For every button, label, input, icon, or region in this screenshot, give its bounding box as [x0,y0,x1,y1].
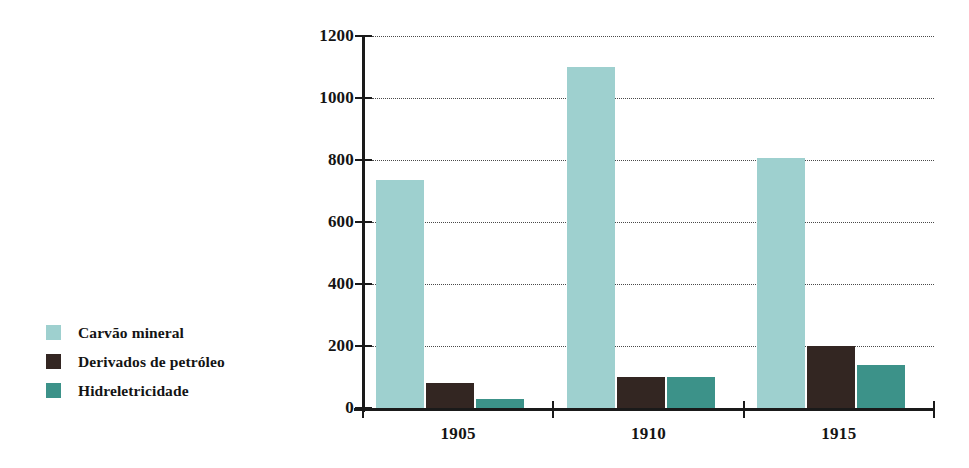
bar [667,377,715,408]
chart-legend: Carvão mineral Derivados de petróleo Hid… [46,318,296,405]
gridline [372,284,934,285]
bar [807,346,855,408]
legend-item-derivados-de-petroleo: Derivados de petróleo [46,347,296,376]
legend-label-derivados-de-petroleo: Derivados de petróleo [78,353,225,371]
y-axis-tick-label: 0 [345,398,354,418]
y-axis-tick-label: 1200 [319,26,354,46]
x-axis-tick-mark [933,401,935,418]
x-axis-tick-label: 1910 [631,424,666,444]
legend-swatch-hidreletricidade [46,383,61,398]
legend-swatch-derivados-de-petroleo [46,354,61,369]
y-axis-tick-labels: 020040060080010001200 [300,20,354,450]
legend-swatch-carvao-mineral [46,325,61,340]
bar [426,383,474,408]
x-axis-tick-mark [362,401,364,418]
bar [376,180,424,408]
y-axis-tick-label: 1000 [319,88,354,108]
legend-label-carvao-mineral: Carvão mineral [78,324,184,342]
y-axis-tick-label: 200 [328,336,354,356]
y-axis-tick-mark [355,35,372,37]
axes-and-bars: 190519101915 [354,20,950,450]
legend-item-carvao-mineral: Carvão mineral [46,318,296,347]
x-axis-tick-label: 1905 [441,424,476,444]
bar [857,365,905,408]
legend-item-hidreletricidade: Hidreletricidade [46,376,296,405]
y-axis-tick-mark [355,221,372,223]
chart-figure: Carvão mineral Derivados de petróleo Hid… [0,0,969,468]
legend-label-hidreletricidade: Hidreletricidade [78,382,189,400]
gridline [372,36,934,37]
gridline [372,160,934,161]
gridline [372,98,934,99]
x-axis-tick-mark [552,401,554,418]
bar [617,377,665,408]
y-axis-tick-mark [355,283,372,285]
x-axis-line [354,408,934,411]
y-axis-line [362,36,365,412]
y-axis-tick-label: 600 [328,212,354,232]
y-axis-tick-mark [355,97,372,99]
y-axis-tick-label: 800 [328,150,354,170]
x-axis-tick-mark [743,401,745,418]
y-axis-tick-mark [355,159,372,161]
y-axis-tick-label: 400 [328,274,354,294]
plot-area: 020040060080010001200 190519101915 [300,20,950,450]
bar [757,158,805,408]
x-axis-tick-label: 1915 [821,424,856,444]
gridline [372,222,934,223]
bar [476,399,524,408]
y-axis-tick-mark [355,345,372,347]
bar [567,67,615,408]
